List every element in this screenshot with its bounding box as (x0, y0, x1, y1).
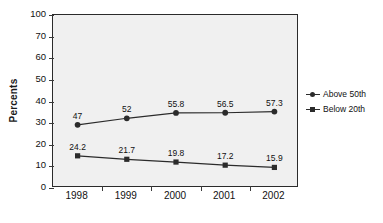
y-axis-tick-label: 100 (30, 9, 46, 19)
series-marker (272, 109, 278, 115)
y-axis-tick-label: 20 (35, 139, 46, 149)
data-point-label: 17.2 (217, 152, 234, 161)
y-axis-title-label: Percents (9, 78, 20, 122)
legend-label: Above 50th (323, 90, 366, 99)
legend-item[interactable]: Below 20th (306, 103, 382, 116)
series-marker (222, 110, 228, 116)
series-marker (173, 159, 178, 164)
x-axis-tick-label: 2002 (262, 191, 284, 201)
data-point-label: 57.3 (266, 98, 283, 107)
data-point-label: 24.2 (69, 142, 86, 151)
legend-marker-circle-icon (306, 90, 320, 99)
x-axis-tick-labels: 19981999200020012002 (52, 191, 298, 209)
x-axis-tick-label: 2000 (164, 191, 186, 201)
y-axis-tick-label: 50 (35, 74, 46, 84)
data-point-label: 55.8 (168, 99, 185, 108)
y-axis-tick-label: 70 (35, 31, 46, 41)
line-chart: Percents 100706050403020100 475255.856.5… (0, 0, 383, 223)
y-axis-tick-labels: 100706050403020100 (22, 14, 46, 187)
y-axis-tick-label: 10 (35, 161, 46, 171)
data-point-label: 47 (73, 111, 82, 120)
data-point-label: 19.8 (168, 149, 185, 158)
y-axis-tick-label: 60 (35, 53, 46, 63)
y-axis-tick-label: 0 (41, 182, 46, 192)
x-axis-tick-label: 2001 (213, 191, 235, 201)
series-marker (272, 165, 277, 170)
x-axis-tick-label: 1998 (65, 191, 87, 201)
series-marker (223, 163, 228, 168)
y-axis-tick-mark (49, 188, 54, 189)
legend-marker-square-icon (306, 105, 320, 114)
series-marker (124, 157, 129, 162)
legend-label: Below 20th (323, 105, 365, 114)
x-axis-tick-label: 1999 (115, 191, 137, 201)
series-marker (75, 122, 81, 128)
data-point-label: 56.5 (217, 99, 234, 108)
data-point-label: 15.9 (266, 154, 283, 163)
data-point-label: 21.7 (119, 146, 136, 155)
legend: Above 50thBelow 20th (306, 88, 382, 118)
legend-item[interactable]: Above 50th (306, 88, 382, 101)
y-axis-tick-label: 40 (35, 96, 46, 106)
series-marker (75, 153, 80, 158)
y-axis-tick-label: 30 (35, 117, 46, 127)
series-marker (124, 115, 130, 121)
plot-area: 475255.856.557.324.221.719.817.215.9 (52, 14, 298, 187)
data-point-label: 52 (122, 105, 131, 114)
series-marker (173, 110, 179, 116)
